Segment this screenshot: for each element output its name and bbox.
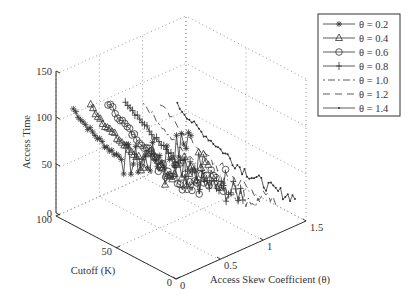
legend-label: θ = 1.4 (359, 103, 389, 114)
series-0.4 (87, 100, 212, 188)
legend-label: θ = 0.2 (359, 19, 388, 30)
legend-label: θ = 0.8 (359, 61, 388, 72)
z-axis-title: Access Time (21, 115, 32, 169)
cutoff-tick-label: 100 (36, 214, 52, 225)
theta-axis-line (176, 221, 306, 279)
theta-axis-title: Access Skew Coefficient (θ) (210, 274, 331, 286)
theta-tick-label: 1 (267, 241, 272, 252)
legend-label: θ = 1.2 (359, 89, 388, 100)
theta-tick-label: 0.5 (224, 260, 237, 271)
z-tick-label: 50 (42, 159, 53, 170)
cutoff-tick-label: 50 (102, 246, 113, 257)
theta-tick-label: 0 (180, 280, 185, 291)
legend-label: θ = 1.0 (359, 75, 388, 86)
theta-tick-label: 1.5 (310, 222, 323, 233)
legend: θ = 0.2θ = 0.4θ = 0.6θ = 0.8θ = 1.0θ = 1… (318, 14, 400, 116)
legend-label: θ = 0.6 (359, 47, 388, 58)
data-series (70, 98, 296, 209)
z-tick-label: 100 (36, 112, 52, 123)
z-tick-label: 150 (36, 66, 52, 77)
series-1.4 (176, 102, 296, 202)
legend-label: θ = 0.4 (359, 33, 389, 44)
3d-line-chart: 05010015010050000.511.5 Access Time Cuto… (0, 0, 411, 303)
cutoff-tick-label: 0 (167, 277, 172, 288)
cutoff-axis-title: Cutoff (K) (71, 265, 116, 277)
